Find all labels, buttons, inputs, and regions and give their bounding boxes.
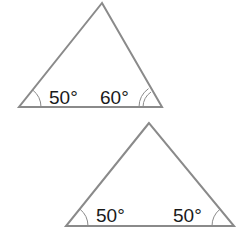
angle-label-bottom-left: 50° [96,205,125,226]
angle-arc-bottom-left [80,209,88,226]
triangle-top: 50° 60° [19,3,162,108]
angle-arc-bottom-right [212,210,220,227]
triangle-diagram: 50° 60° 50° 50° [0,0,242,236]
angle-label-top-right: 60° [100,87,129,108]
angle-arc-top-right-inner [143,92,151,107]
triangle-bottom-outline [66,123,234,226]
angle-arc-top-left [33,90,41,107]
angle-label-bottom-right: 50° [173,205,202,226]
angle-label-top-left: 50° [49,87,78,108]
triangle-bottom: 50° 50° [66,123,234,226]
triangle-top-outline [19,3,162,107]
